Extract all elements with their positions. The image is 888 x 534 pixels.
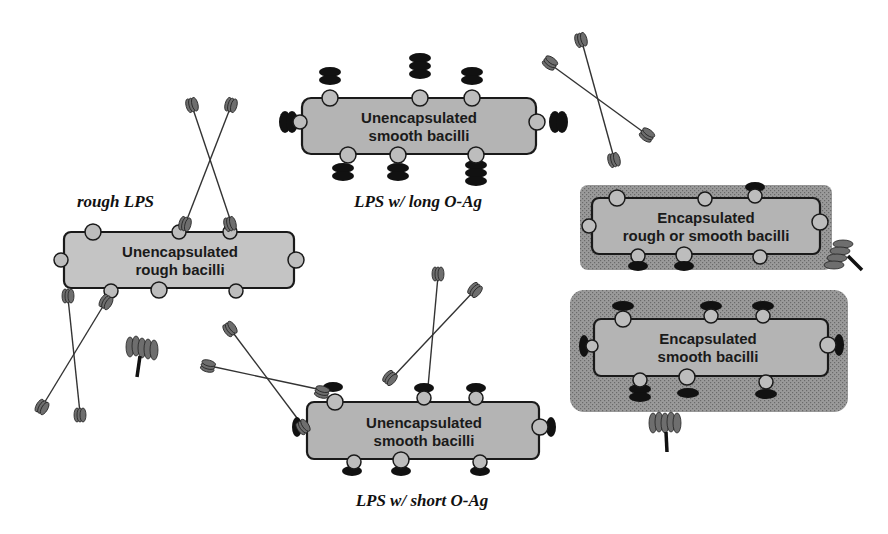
- antibody-pair-free: [541, 32, 656, 169]
- cell-label: Encapsulated: [657, 209, 755, 226]
- cell-label: Unencapsulated: [366, 414, 482, 431]
- cell-label: Unencapsulated: [122, 243, 238, 260]
- cell-unencap-rough: Unencapsulated rough bacilli: [54, 216, 304, 298]
- antibody-cluster: [649, 412, 681, 452]
- cell-label: rough bacilli: [135, 261, 224, 278]
- cell-label: smooth bacilli: [369, 127, 470, 144]
- caption-long-o-ag: LPS w/ long O-Ag: [353, 192, 482, 211]
- cell-label: rough or smooth bacilli: [623, 227, 790, 244]
- cell-label: smooth bacilli: [658, 348, 759, 365]
- cell-encap-rough-smooth: Encapsulated rough or smooth bacilli: [580, 182, 862, 271]
- cell-label: smooth bacilli: [374, 432, 475, 449]
- antibody-cluster: [126, 336, 158, 377]
- cell-unencap-smooth-short: Unencapsulated smooth bacilli: [292, 382, 556, 476]
- cell-label: Encapsulated: [659, 330, 757, 347]
- caption-short-o-ag: LPS w/ short O-Ag: [355, 491, 489, 510]
- caption-rough-lps: rough LPS: [77, 192, 154, 211]
- cell-encap-smooth: Encapsulated smooth bacilli: [570, 290, 848, 412]
- antibody-pair-rough-top: [184, 97, 238, 222]
- cell-label: Unencapsulated: [361, 109, 477, 126]
- cell-unencap-smooth-long: Unencapsulated smooth bacilli: [279, 53, 568, 186]
- lps-antibody-diagram: Unencapsulated smooth bacilli LPS w/ lon…: [0, 0, 888, 534]
- antibody-pair-rough-bottom: [33, 289, 114, 422]
